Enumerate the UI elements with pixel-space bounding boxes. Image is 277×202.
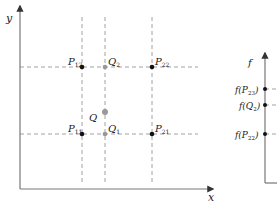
- label-p12: P12: [67, 56, 83, 68]
- label-q1: Q1: [108, 123, 120, 135]
- point-q: [102, 109, 108, 115]
- label-q2: Q2: [108, 56, 120, 68]
- f-point-p23: [263, 87, 267, 91]
- f-label-p23: f(P23): [234, 85, 259, 96]
- left-plot: y x P12 Q2 P22 Q P11 Q1 P21: [5, 6, 215, 202]
- f-point-p22: [263, 132, 267, 136]
- y-axis-label: y: [5, 12, 13, 25]
- label-q: Q: [89, 112, 97, 123]
- label-p11: P11: [67, 123, 82, 135]
- bilinear-interpolation-diagram: y x P12 Q2 P22 Q P11 Q1 P21 f f(P23) f(Q…: [0, 0, 277, 202]
- f-label-q2: f(Q2): [238, 101, 261, 112]
- f-point-q2: [263, 103, 267, 107]
- point-p22: [150, 65, 155, 70]
- label-p22: P22: [154, 56, 170, 68]
- point-q2: [103, 65, 108, 70]
- point-q1: [103, 132, 108, 137]
- label-p21: P21: [154, 123, 169, 135]
- f-label-p22: f(P22): [234, 130, 259, 141]
- point-p21: [150, 132, 155, 137]
- x-axis-label: x: [208, 191, 215, 202]
- right-plot: f f(P23) f(Q2) f(P22): [234, 53, 277, 183]
- f-axis-label: f: [247, 57, 254, 68]
